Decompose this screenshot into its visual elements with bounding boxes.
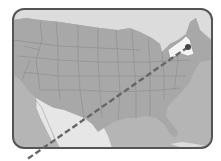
map-content [13,9,212,148]
location-marker-icon [185,44,191,50]
map-figure [0,0,221,161]
